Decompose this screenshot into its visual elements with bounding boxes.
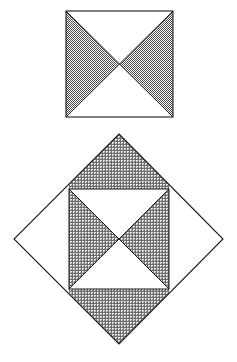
- diamond-lower-shaded-region: [69, 289, 169, 344]
- figure-canvas: Geometric figure: shaded square and insc…: [0, 0, 237, 362]
- bottom-diamond-figure: [14, 134, 223, 344]
- geometric-diagram: [0, 0, 237, 362]
- top-square-figure: [66, 11, 173, 117]
- diamond-upper-shaded-region: [69, 134, 169, 189]
